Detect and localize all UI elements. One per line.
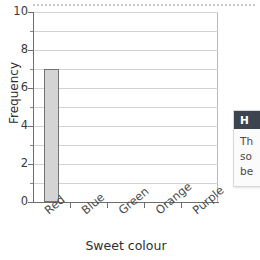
gridline: [33, 50, 218, 51]
callout-line: Th: [240, 134, 260, 149]
gridline: [33, 12, 218, 13]
y-tick: [28, 88, 33, 89]
y-tick-minor: [30, 107, 33, 108]
x-tick: [144, 203, 145, 208]
y-tick-minor: [30, 183, 33, 184]
chart-figure: 0246810 RedBlueGreenOrangePurple Frequen…: [0, 0, 260, 260]
y-tick-label: 2: [0, 158, 28, 170]
callout-header: H: [234, 111, 260, 129]
top-dotted-rule: [33, 4, 255, 6]
y-tick-minor: [30, 69, 33, 70]
callout-box: H Th so be: [233, 110, 260, 187]
y-axis-title: Frequency: [7, 33, 21, 153]
y-tick-label: 10: [0, 6, 28, 18]
y-tick-minor: [30, 145, 33, 146]
gridline: [33, 126, 218, 127]
gridline: [33, 164, 218, 165]
gridline: [33, 31, 218, 32]
y-tick: [28, 202, 33, 203]
gridline: [33, 107, 218, 108]
y-tick: [28, 126, 33, 127]
callout-body: Th so be: [234, 129, 260, 186]
gridline: [33, 88, 218, 89]
gridline: [33, 183, 218, 184]
y-tick: [28, 50, 33, 51]
y-tick: [28, 164, 33, 165]
callout-line: so: [240, 149, 260, 164]
gridline: [33, 69, 218, 70]
x-tick: [107, 203, 108, 208]
x-tick: [70, 203, 71, 208]
x-tick: [181, 203, 182, 208]
gridline: [33, 145, 218, 146]
x-axis-title: Sweet colour: [33, 238, 219, 253]
y-tick-minor: [30, 31, 33, 32]
bar: [44, 69, 60, 202]
y-tick: [28, 12, 33, 13]
y-tick-label: 0: [0, 196, 28, 208]
y-axis-line: [33, 12, 34, 203]
callout-line: be: [240, 164, 260, 179]
plot-area: [33, 12, 218, 202]
